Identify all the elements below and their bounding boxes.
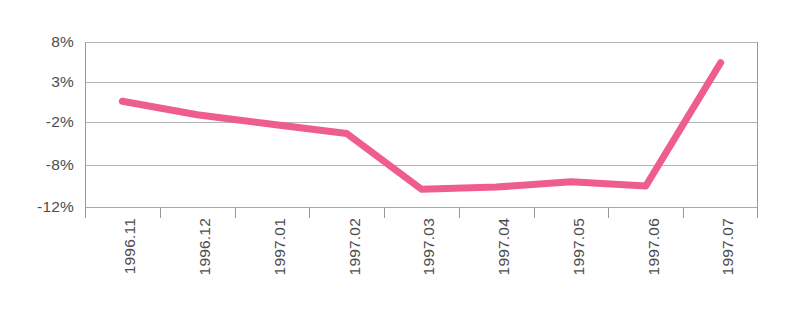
y-axis-line-left <box>85 42 86 207</box>
x-tick-label-2: 1997.01 <box>272 218 288 275</box>
y-tick-label-3: -8% <box>46 157 74 173</box>
x-tick-7 <box>608 207 609 218</box>
x-tick-2 <box>235 207 236 218</box>
x-tick-3 <box>309 207 310 218</box>
x-tick-label-3: 1997.02 <box>347 218 363 275</box>
x-tick-1 <box>160 207 161 218</box>
x-tick-label-0: 1996.11 <box>122 218 138 274</box>
y-tick-label-4: -12% <box>37 199 74 215</box>
x-axis-labels: 1996.11 1996.12 1997.01 1997.02 1997.03 … <box>85 218 758 312</box>
y-tick-label-2: -2% <box>46 114 74 130</box>
x-tick-0 <box>85 207 86 218</box>
gridline-neg8 <box>85 165 758 166</box>
x-tick-8 <box>683 207 684 218</box>
line-chart: 8% 3% -2% -8% -12% 1996.11 1996.12 1997.… <box>0 0 799 312</box>
x-tick-label-1: 1996.12 <box>197 218 213 275</box>
x-tick-label-5: 1997.04 <box>496 218 512 275</box>
x-tick-label-8: 1997.07 <box>720 218 736 275</box>
gridline-baseline-neg12 <box>85 207 758 208</box>
x-tick-label-6: 1997.05 <box>571 218 587 275</box>
x-tick-9 <box>757 207 758 218</box>
gridline-neg2 <box>85 122 758 123</box>
x-tick-5 <box>459 207 460 218</box>
y-tick-label-1: 3% <box>51 74 74 90</box>
y-tick-label-0: 8% <box>51 34 74 50</box>
gridline-3 <box>85 82 758 83</box>
x-tick-label-4: 1997.03 <box>421 218 437 275</box>
x-tick-label-7: 1997.06 <box>646 218 662 275</box>
x-tick-4 <box>384 207 385 218</box>
plot-area <box>85 30 758 207</box>
y-axis-line-right <box>757 42 758 207</box>
y-axis-labels: 8% 3% -2% -8% -12% <box>0 0 74 312</box>
x-tick-6 <box>534 207 535 218</box>
gridline-8 <box>85 42 758 43</box>
